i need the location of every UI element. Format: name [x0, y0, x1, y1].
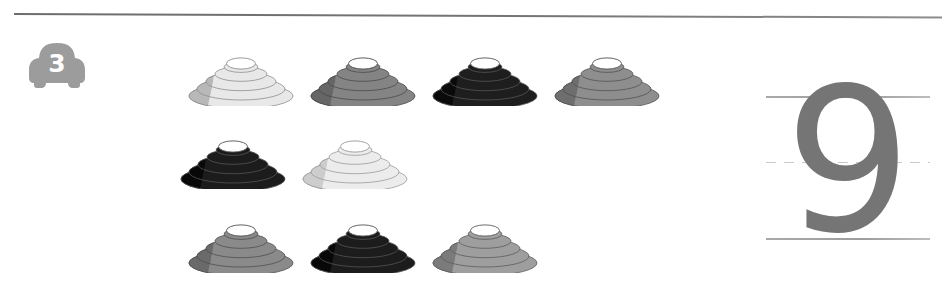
cone-object [300, 127, 410, 189]
stacked-ring-cone-icon [308, 44, 418, 106]
cone-object [308, 44, 418, 106]
cone-object [186, 44, 296, 106]
svg-text:9: 9 [784, 80, 911, 260]
stacked-ring-cone-icon [186, 211, 296, 273]
object-row [178, 127, 410, 189]
objects-group [0, 0, 720, 301]
stacked-ring-cone-icon [300, 127, 410, 189]
numeral-nine-icon: 9 [760, 80, 936, 260]
cone-object [308, 211, 418, 273]
stacked-ring-cone-icon [552, 44, 662, 106]
answer-numeral: 9 [760, 80, 936, 260]
object-row [186, 211, 540, 273]
cone-object [178, 127, 288, 189]
stacked-ring-cone-icon [186, 44, 296, 106]
cone-object [186, 211, 296, 273]
handwriting-practice-panel: 9 [760, 80, 936, 260]
cone-object [552, 44, 662, 106]
cone-object [430, 211, 540, 273]
object-row [186, 44, 662, 106]
stacked-ring-cone-icon [430, 44, 540, 106]
stacked-ring-cone-icon [308, 211, 418, 273]
cone-object [430, 44, 540, 106]
worksheet-page: 3 [0, 0, 946, 301]
stacked-ring-cone-icon [178, 127, 288, 189]
stacked-ring-cone-icon [430, 211, 540, 273]
